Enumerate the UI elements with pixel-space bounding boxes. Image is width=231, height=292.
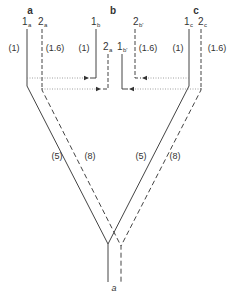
branch-right-dashed [121, 88, 201, 282]
ratio-1a: (1) [9, 43, 20, 53]
ratio-2b-prime: (1.6) [139, 43, 158, 53]
ratio-1c: (1) [173, 43, 184, 53]
ratio-1b: (1) [79, 43, 90, 53]
ratio-2c: (1.6) [208, 43, 227, 53]
svg-text:a: a [109, 47, 113, 53]
column-label-2a-inner: 2 a [103, 41, 113, 53]
column-2b-prime-dashed [135, 29, 141, 78]
column-label-1b: 1 b [91, 16, 101, 28]
branch-right-solid [108, 82, 189, 244]
output-label: a [111, 283, 116, 292]
svg-text:a: a [44, 22, 48, 28]
ratio-right-solid: (5) [136, 151, 147, 161]
svg-text:c: c [204, 22, 207, 28]
column-label-2c: 2 c [198, 16, 207, 28]
column-label-1a: 1 a [22, 16, 32, 28]
group-label-b: b [110, 5, 116, 16]
svg-text:a: a [28, 22, 32, 28]
column-label-2b-prime: 2 b' [133, 16, 143, 28]
branch-left-dashed [42, 88, 121, 246]
column-label-2a: 2 a [38, 16, 48, 28]
column-label-1c: 1 c [184, 16, 193, 28]
svg-text:c: c [190, 22, 193, 28]
column-1b-solid [90, 29, 96, 78]
group-label-a: a [27, 5, 33, 16]
svg-text:b': b' [139, 22, 143, 28]
branch-left-solid [27, 82, 108, 282]
ratio-right-dashed: (8) [170, 151, 181, 161]
diagram-canvas: a b c 1 a 2 a 1 b 2 b' 1 c 2 c 2 a 1 b' … [0, 0, 231, 292]
svg-text:b: b [97, 22, 101, 28]
ratio-2a: (1.6) [46, 43, 65, 53]
column-2a-inner-dashed [102, 54, 108, 89]
group-label-c: c [193, 5, 199, 16]
ratio-left-dashed: (8) [85, 151, 96, 161]
column-1b-prime-solid [122, 54, 128, 89]
ratio-left-solid: (5) [52, 151, 63, 161]
svg-text:b': b' [123, 47, 127, 53]
column-label-1b-prime: 1 b' [117, 41, 127, 53]
